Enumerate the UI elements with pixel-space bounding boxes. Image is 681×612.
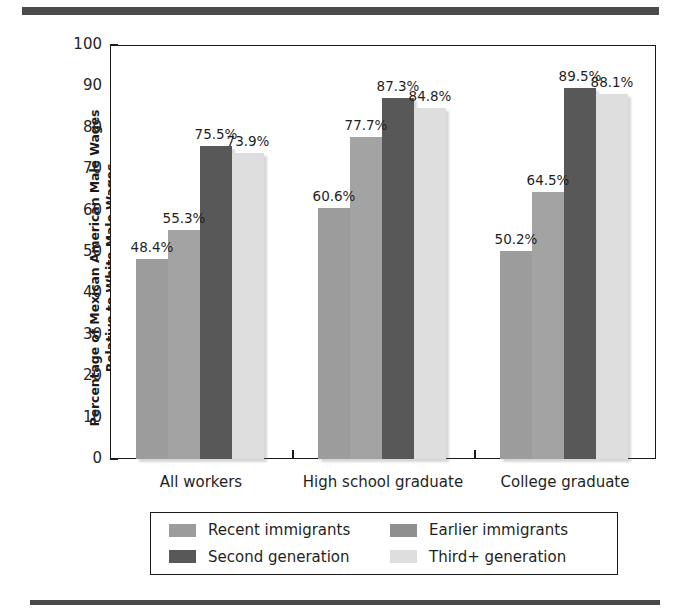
- y-axis-tick-label: 70: [58, 159, 102, 177]
- y-axis-tick-label: 40: [58, 283, 102, 301]
- bar: [232, 153, 264, 459]
- bar-value-label: 64.5%: [518, 172, 578, 188]
- legend-label: Second generation: [208, 548, 350, 566]
- x-axis-group-tick: [474, 450, 476, 459]
- chart-legend: Recent immigrantsEarlier immigrantsSecon…: [150, 512, 618, 575]
- bar: [350, 137, 382, 459]
- y-axis-tick-label: 0: [58, 449, 102, 467]
- bar: [168, 230, 200, 459]
- bar: [200, 146, 232, 459]
- bar-body: [350, 137, 382, 459]
- bar-body: [414, 108, 446, 459]
- bar: [318, 208, 350, 459]
- bar-value-label: 48.4%: [122, 239, 182, 255]
- legend-label: Earlier immigrants: [429, 521, 568, 539]
- bar-body: [232, 153, 264, 459]
- y-axis-tick-label: 80: [58, 118, 102, 136]
- legend-swatch: [390, 524, 417, 537]
- top-decorative-rule: [22, 7, 659, 15]
- bar: [500, 251, 532, 459]
- bar: [564, 88, 596, 459]
- bar-body: [500, 251, 532, 459]
- bar-value-label: 55.3%: [154, 210, 214, 226]
- y-axis-tick-label: 10: [58, 408, 102, 426]
- bar-body: [596, 94, 628, 459]
- bar-value-label: 84.8%: [400, 88, 460, 104]
- legend-label: Recent immigrants: [208, 521, 350, 539]
- legend-swatch: [169, 550, 196, 563]
- bar: [596, 94, 628, 459]
- bar-value-label: 77.7%: [336, 117, 396, 133]
- bar-body: [136, 259, 168, 459]
- bar-body: [382, 98, 414, 459]
- legend-label: Third+ generation: [429, 548, 566, 566]
- legend-item: Third+ generation: [390, 548, 607, 566]
- figure-container: Percentage of Mexican American Male Wage…: [0, 0, 681, 612]
- bar: [136, 259, 168, 459]
- bar-value-label: 73.9%: [218, 133, 278, 149]
- bar-value-label: 50.2%: [486, 231, 546, 247]
- bar-body: [168, 230, 200, 459]
- bar-body: [564, 88, 596, 459]
- x-axis-group-tick: [292, 450, 294, 459]
- bottom-decorative-rule: [30, 600, 660, 605]
- y-axis-tick-label: 60: [58, 201, 102, 219]
- y-axis-tick-label: 30: [58, 325, 102, 343]
- legend-swatch: [169, 524, 196, 537]
- legend-item: Second generation: [169, 548, 386, 566]
- bar-body: [200, 146, 232, 459]
- legend-swatch: [390, 550, 417, 563]
- x-axis-category-label: College graduate: [454, 473, 676, 491]
- y-axis-tick-label: 50: [58, 242, 102, 260]
- legend-item: Recent immigrants: [169, 521, 386, 539]
- legend-item: Earlier immigrants: [390, 521, 607, 539]
- bar: [414, 108, 446, 459]
- bar-value-label: 60.6%: [304, 188, 364, 204]
- bar-body: [318, 208, 350, 459]
- y-axis-tick-label: 90: [58, 76, 102, 94]
- bar-value-label: 88.1%: [582, 74, 642, 90]
- y-axis-tick-label: 100: [58, 35, 102, 53]
- y-axis-tick-label: 20: [58, 366, 102, 384]
- bar: [382, 98, 414, 459]
